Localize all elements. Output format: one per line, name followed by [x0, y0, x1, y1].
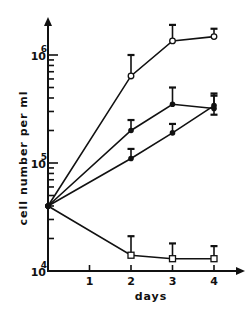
x-tick-label: 4	[210, 275, 218, 288]
y-tick-exponent: 5	[41, 152, 47, 162]
data-series	[45, 25, 217, 262]
data-point-open-square	[211, 256, 217, 262]
data-point-filled-circle	[128, 128, 134, 134]
y-axis-arrow-icon	[44, 17, 52, 26]
data-point-open-circle	[170, 38, 176, 44]
y-tick-exponent: 6	[41, 44, 47, 54]
data-point-filled-circle	[211, 103, 217, 109]
x-tick-label: 1	[86, 275, 94, 288]
y-tick-exponent: 4	[41, 260, 47, 270]
y-axis-label: cell number per ml	[17, 91, 30, 226]
data-point-open-square	[170, 256, 176, 262]
x-axis-arrow-icon	[236, 267, 245, 275]
data-point-filled-circle	[170, 101, 176, 107]
x-ticks: 1234	[86, 265, 219, 288]
x-tick-label: 2	[127, 275, 135, 288]
data-point-open-square	[128, 252, 134, 258]
data-point-open-circle	[128, 73, 134, 79]
data-point-filled-circle	[128, 156, 134, 162]
growth-chart: 104105106 1234 days cell number per ml	[0, 0, 252, 317]
series-open-circles	[45, 25, 217, 209]
data-point-filled-circle	[170, 130, 176, 136]
x-axis-label: days	[135, 290, 168, 303]
series-filled-circles-lower	[45, 96, 217, 209]
x-tick-label: 3	[169, 275, 177, 288]
data-point-open-circle	[211, 34, 217, 40]
series-open-squares	[45, 203, 217, 262]
